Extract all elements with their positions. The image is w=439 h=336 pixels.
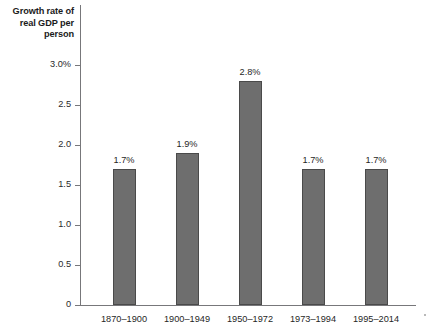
y-axis-tick-mark — [75, 65, 80, 66]
y-axis-title: Growth rate of real GDP per person — [0, 6, 74, 41]
y-axis-title-line-1: Growth rate of — [0, 6, 74, 18]
y-axis-tick-label-text: 2.5 — [0, 99, 71, 109]
y-axis-tick-label-text: 0 — [0, 299, 71, 309]
x-axis-category-label: 1870–1900 — [93, 314, 155, 324]
y-axis-tick-mark — [75, 145, 80, 146]
bar-value-label: 1.9% — [163, 139, 211, 149]
bar-value-label: 2.8% — [226, 67, 274, 77]
bar — [365, 169, 388, 305]
y-axis-tick-label-text: 1.5 — [0, 179, 71, 189]
y-axis-tick-label-text: 3.0% — [0, 59, 71, 69]
y-axis-tick-label-text: 0.5 — [0, 259, 71, 269]
bar — [113, 169, 136, 305]
y-axis-tick-label: 1.5 — [0, 179, 71, 190]
y-axis-line — [80, 5, 81, 306]
y-axis-tick-mark — [75, 305, 80, 306]
x-axis-category-label: 1995–2014 — [345, 314, 407, 324]
y-axis-tick-label: 0.5 — [0, 259, 71, 270]
bar — [176, 153, 199, 305]
y-axis-tick-mark — [75, 185, 80, 186]
y-axis-tick-label: 3.0% — [0, 59, 71, 70]
chart-canvas: Growth rate of real GDP per person 3.0%2… — [0, 0, 439, 336]
y-axis-tick-label-text: 1.0 — [0, 219, 71, 229]
page-speck — [424, 314, 426, 316]
y-axis-title-line-3: person — [0, 29, 74, 41]
bar-value-label: 1.7% — [289, 155, 337, 165]
y-axis-tick-label: 0 — [0, 299, 71, 310]
y-axis-tick-mark — [75, 265, 80, 266]
x-axis-category-label: 1900–1949 — [156, 314, 218, 324]
y-axis-title-line-2: real GDP per — [0, 18, 74, 30]
y-axis-tick-label: 2.5 — [0, 99, 71, 110]
y-axis-tick-mark — [75, 225, 80, 226]
y-axis-tick-label: 2.0 — [0, 139, 71, 150]
bar-value-label: 1.7% — [100, 155, 148, 165]
x-axis-category-label: 1950–1972 — [219, 314, 281, 324]
y-axis-tick-mark — [75, 105, 80, 106]
bar-value-label: 1.7% — [352, 155, 400, 165]
bar — [239, 81, 262, 305]
y-axis-tick-label: 1.0 — [0, 219, 71, 230]
bar — [302, 169, 325, 305]
y-axis-tick-label-text: 2.0 — [0, 139, 71, 149]
x-axis-line — [80, 305, 416, 306]
x-axis-category-label: 1973–1994 — [282, 314, 344, 324]
